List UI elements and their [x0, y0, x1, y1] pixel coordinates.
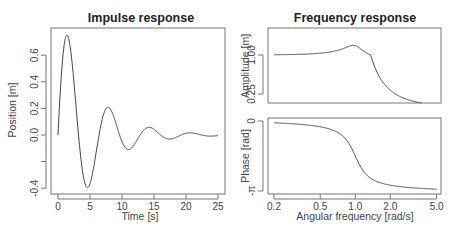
x-tick-label: 0: [55, 201, 61, 212]
y-tick-label: 0.6: [29, 48, 40, 62]
amplitude-plot-box: [268, 28, 441, 103]
x-tick-label: 5: [87, 201, 93, 212]
phase-plot-box: [268, 118, 441, 194]
amplitude-curve: [274, 45, 422, 103]
amplitude-ylabel: Amplitude [m]: [239, 34, 251, 98]
x-tick-label: 20: [180, 201, 192, 212]
chart-figure: Impulse response 0510152025 -0.40.00.20.…: [0, 0, 460, 237]
impulse-xlabel: Time [s]: [122, 210, 159, 222]
impulse-curve: [58, 35, 218, 187]
phase-curve: [274, 123, 437, 189]
frequency-xlabel: Angular frequency [rad/s]: [296, 210, 413, 222]
impulse-title: Impulse response: [88, 11, 194, 25]
frequency-title: Frequency response: [294, 11, 416, 25]
x-tick-label: 0.2: [267, 201, 281, 212]
y-tick-label: 0.2: [29, 101, 40, 115]
phase-ylabel: Phase [rad]: [239, 129, 251, 183]
y-tick-label: 0.0: [29, 128, 40, 142]
impulse-y-axis: -0.40.00.20.40.6: [29, 48, 46, 197]
x-tick-label: 25: [212, 201, 224, 212]
y-tick-label: -0.4: [29, 179, 40, 197]
x-tick-label: 5.0: [430, 201, 444, 212]
y-tick-label: -π: [246, 186, 257, 196]
impulse-response-panel: Impulse response 0510152025 -0.40.00.20.…: [6, 11, 225, 222]
frequency-response-panel: Frequency response 1.000.25 0-π 0.20.51.…: [239, 11, 444, 222]
impulse-ylabel: Position [m]: [6, 82, 18, 137]
impulse-plot-box: [51, 28, 225, 194]
y-tick-label: 0: [246, 118, 257, 124]
y-tick-label: 0.4: [29, 74, 40, 88]
